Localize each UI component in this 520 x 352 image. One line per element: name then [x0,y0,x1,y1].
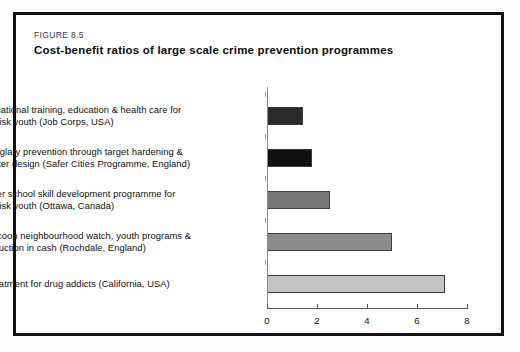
axis-category-tick [265,260,266,265]
bar-label-line: at-risk youth (Job Corps, USA) [0,116,217,128]
x-axis-tick [317,304,318,308]
x-axis-tick-label: 2 [314,315,319,326]
bar [267,275,445,293]
axis-baseline-vertical [267,87,268,308]
x-axis-tick [467,304,468,308]
x-axis-line [267,308,468,309]
axis-category-tick [265,92,266,97]
bar-row: Vocational training, education & health … [16,95,467,137]
x-axis-tick-label: 4 [364,315,369,326]
bar-label-line: better design (Safer Cities Programme, E… [0,158,217,170]
bar-row: After school skill development programme… [16,179,467,221]
figure-page: FIGURE 8.5 Cost-benefit ratios of large … [0,0,520,352]
bar-label-line: Burglary prevention through target harde… [0,146,217,158]
bar-label-line: Treatment for drug addicts (California, … [0,278,217,290]
bar-chart-plot-area: Vocational training, education & health … [16,15,501,333]
bar-row: Burglary prevention through target harde… [16,137,467,179]
axis-category-tick [265,176,266,181]
bar-label: Cocoon neighbourhood watch, youth progra… [0,230,217,255]
x-axis-tick-label: 0 [264,315,269,326]
bar-label: Vocational training, education & health … [0,104,217,129]
bar-label-line: After school skill development programme… [0,188,217,200]
bar-label: After school skill development programme… [0,188,217,213]
bar [267,107,303,125]
axis-category-tick [265,218,266,223]
bar-label-line: Vocational training, education & health … [0,104,217,116]
bar [267,191,330,209]
bar-label: Treatment for drug addicts (California, … [0,278,217,290]
x-axis-tick [367,304,368,308]
bar-row: Cocoon neighbourhood watch, youth progra… [16,221,467,263]
x-axis-tick [417,304,418,308]
bar-label-line: at-risk youth (Ottawa, Canada) [0,200,217,212]
bar [267,149,312,167]
figure-border-frame: FIGURE 8.5 Cost-benefit ratios of large … [13,12,504,336]
x-axis-tick-label: 8 [464,315,469,326]
x-axis-tick [267,304,268,308]
bar-label-line: reduction in cash (Rochdale, England) [0,242,217,254]
bar-label: Burglary prevention through target harde… [0,146,217,171]
bar-row: Treatment for drug addicts (California, … [16,263,467,305]
bar [267,233,392,251]
bar-label-line: Cocoon neighbourhood watch, youth progra… [0,230,217,242]
x-axis-tick-label: 6 [414,315,419,326]
axis-category-tick [265,134,266,139]
